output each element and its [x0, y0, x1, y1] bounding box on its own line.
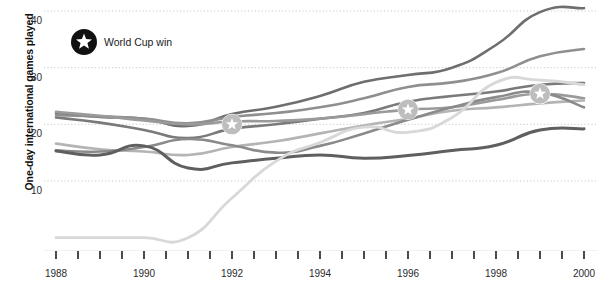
x-tick-label-1988: 1988 — [36, 268, 76, 279]
line-series-8 — [56, 77, 584, 242]
y-tick-label-20: 20 — [20, 128, 42, 139]
line-series-4 — [56, 94, 584, 125]
x-tick-label-1992: 1992 — [212, 268, 252, 279]
y-tick-label-30: 30 — [20, 72, 42, 83]
legend-star-icon — [71, 29, 97, 55]
legend-item-world-cup-win-label: World Cup win — [104, 36, 172, 48]
x-tick-label-1990: 1990 — [124, 268, 164, 279]
line-series-2 — [56, 49, 584, 123]
y-tick-label-10: 10 — [20, 185, 42, 196]
x-tick-label-2000: 2000 — [564, 268, 598, 279]
world-cup-win-marker — [530, 83, 551, 104]
chart-plot-area — [0, 0, 598, 292]
chart-container: One-day international games played World… — [0, 0, 598, 292]
x-tick-label-1996: 1996 — [388, 268, 428, 279]
y-tick-label-40: 40 — [20, 15, 42, 26]
x-tick-label-1998: 1998 — [476, 268, 516, 279]
world-cup-win-marker — [222, 114, 243, 135]
line-series-3 — [56, 83, 584, 138]
x-tick-label-1994: 1994 — [300, 268, 340, 279]
world-cup-win-marker — [398, 99, 419, 120]
